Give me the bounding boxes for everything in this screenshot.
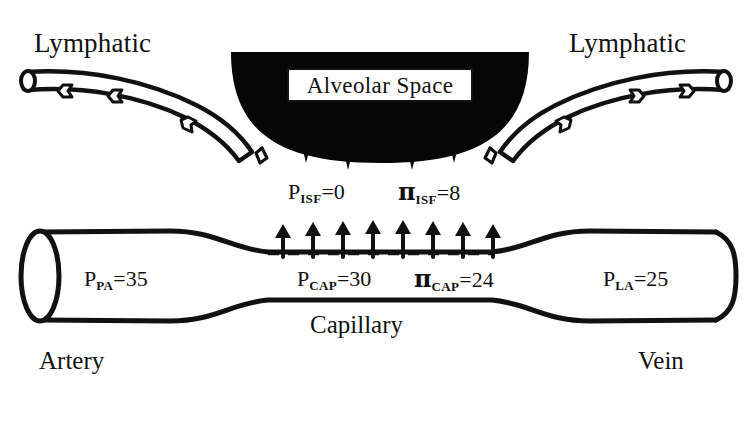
pressure-left-atrium: PLA=25	[603, 268, 668, 292]
value: 8	[449, 180, 460, 205]
lymphatic-right-label: Lymphatic	[569, 30, 686, 57]
lymph-droplet-right	[485, 148, 496, 163]
subscript: PA	[96, 278, 113, 293]
lymphatic-vessel-left	[21, 71, 252, 161]
pressure-isf-oncotic: πISF=8	[398, 180, 460, 206]
subscript: CAP	[432, 279, 460, 294]
subscript: LA	[615, 278, 634, 293]
lymphatic-vessel-right	[500, 71, 731, 161]
vein-label: Vein	[638, 348, 684, 373]
vein-end-cap	[716, 232, 736, 320]
pressure-capillary-hydrostatic: PCAP=30	[297, 268, 371, 292]
lymphatic-left-label: Lymphatic	[34, 30, 151, 57]
symbol: P	[603, 266, 615, 291]
subscript: ISF	[300, 191, 321, 206]
equals: =	[459, 267, 471, 292]
artery-label: Artery	[39, 348, 104, 373]
subscript: ISF	[416, 192, 437, 207]
artery-opening	[21, 231, 59, 321]
alveolar-space-label: Alveolar Space	[287, 68, 473, 102]
symbol: π	[414, 264, 432, 293]
symbol: P	[288, 179, 300, 204]
value: 25	[646, 266, 668, 291]
value: 0	[334, 179, 345, 204]
capillary-label: Capillary	[310, 312, 403, 337]
value: 24	[472, 267, 494, 292]
value: 30	[349, 266, 371, 291]
symbol: P	[297, 266, 309, 291]
pressure-isf-hydrostatic: PISF=0	[288, 181, 345, 205]
lymph-droplet-left	[256, 148, 267, 163]
equals: =	[113, 266, 125, 291]
lymph-flow-arrow	[181, 117, 196, 132]
figure-canvas: STARLING FORCES	[0, 0, 752, 436]
symbol: P	[84, 266, 96, 291]
symbol: π	[398, 177, 416, 206]
pressure-pulmonary-artery: PPA=35	[84, 268, 148, 292]
pressure-capillary-oncotic: πCAP=24	[414, 267, 494, 293]
equals: =	[634, 266, 646, 291]
value: 35	[126, 266, 148, 291]
equals: =	[321, 179, 333, 204]
lymph-flow-arrow	[556, 117, 571, 132]
subscript: CAP	[309, 278, 337, 293]
equals: =	[337, 266, 349, 291]
equals: =	[437, 180, 449, 205]
